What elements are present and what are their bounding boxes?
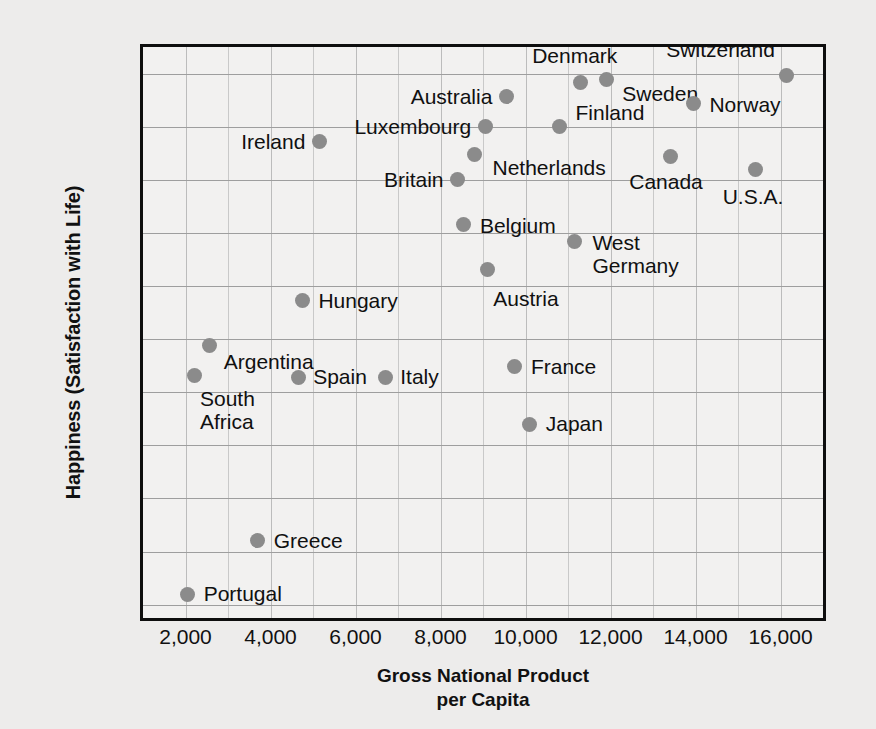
horizontal-gridline bbox=[143, 445, 823, 446]
data-point[interactable] bbox=[480, 262, 495, 277]
data-point-label: Ireland bbox=[241, 130, 305, 153]
data-point[interactable] bbox=[507, 359, 522, 374]
x-axis-title: Gross National Product per Capita bbox=[140, 664, 826, 713]
data-point-label: Canada bbox=[629, 171, 703, 194]
data-point[interactable] bbox=[250, 533, 265, 548]
data-point-label: Portugal bbox=[204, 583, 282, 606]
horizontal-gridline bbox=[143, 498, 823, 499]
data-point-label: Spain bbox=[313, 366, 367, 389]
data-point-label: Australia bbox=[411, 86, 493, 109]
data-point-label: Switzerland bbox=[666, 47, 775, 61]
data-point[interactable] bbox=[180, 587, 195, 602]
vertical-gridline bbox=[526, 47, 527, 618]
plot-inner: PortugalGreeceSouth AfricaArgentinaSpain… bbox=[143, 47, 823, 618]
vertical-gridline bbox=[738, 47, 739, 618]
data-point[interactable] bbox=[552, 119, 567, 134]
vertical-gridline bbox=[611, 47, 612, 618]
data-point[interactable] bbox=[295, 293, 310, 308]
data-point[interactable] bbox=[478, 119, 493, 134]
data-point-label: France bbox=[531, 355, 596, 378]
data-point[interactable] bbox=[522, 417, 537, 432]
data-point[interactable] bbox=[599, 72, 614, 87]
data-point[interactable] bbox=[748, 162, 763, 177]
data-point[interactable] bbox=[378, 370, 393, 385]
plot-area: PortugalGreeceSouth AfricaArgentinaSpain… bbox=[140, 44, 826, 621]
vertical-gridline bbox=[186, 47, 187, 618]
data-point-label: Greece bbox=[274, 530, 343, 553]
data-point[interactable] bbox=[779, 68, 794, 83]
data-point[interactable] bbox=[663, 149, 678, 164]
data-point-label: Italy bbox=[400, 366, 439, 389]
data-point[interactable] bbox=[499, 89, 514, 104]
vertical-gridline bbox=[568, 47, 569, 618]
data-point[interactable] bbox=[291, 370, 306, 385]
data-point-label: Luxembourg bbox=[354, 115, 471, 138]
vertical-gridline bbox=[781, 47, 782, 618]
data-point[interactable] bbox=[450, 172, 465, 187]
data-point-label: Japan bbox=[546, 413, 603, 436]
data-point-label: West Germany bbox=[592, 233, 678, 278]
horizontal-gridline bbox=[143, 552, 823, 553]
x-tick-label: 16,000 bbox=[701, 626, 861, 647]
data-point-label: South Africa bbox=[200, 389, 255, 434]
vertical-gridline bbox=[653, 47, 654, 618]
x-axis-title-line2: per Capita bbox=[140, 688, 826, 712]
data-point-label: Austria bbox=[493, 288, 558, 311]
data-point[interactable] bbox=[573, 75, 588, 90]
horizontal-gridline bbox=[143, 74, 823, 75]
data-point[interactable] bbox=[456, 217, 471, 232]
horizontal-gridline bbox=[143, 286, 823, 287]
data-point-label: Denmark bbox=[532, 47, 617, 67]
data-point-label: Norway bbox=[709, 94, 780, 117]
data-point-label: Netherlands bbox=[493, 157, 606, 180]
data-point-label: Hungary bbox=[318, 290, 397, 313]
chart-figure: Happiness (Satisfaction with Life) Portu… bbox=[0, 0, 876, 729]
data-point[interactable] bbox=[202, 338, 217, 353]
x-axis-title-line1: Gross National Product bbox=[140, 664, 826, 688]
data-point[interactable] bbox=[312, 134, 327, 149]
horizontal-gridline bbox=[143, 180, 823, 181]
y-axis-title: Happiness (Satisfaction with Life) bbox=[62, 48, 85, 638]
data-point-label: U.S.A. bbox=[723, 186, 784, 209]
data-point-label: Belgium bbox=[480, 215, 556, 238]
horizontal-gridline bbox=[143, 339, 823, 340]
data-point-label: Britain bbox=[384, 168, 444, 191]
data-point[interactable] bbox=[187, 368, 202, 383]
vertical-gridline bbox=[228, 47, 229, 618]
vertical-gridline bbox=[696, 47, 697, 618]
data-point[interactable] bbox=[567, 234, 582, 249]
data-point[interactable] bbox=[467, 147, 482, 162]
data-point[interactable] bbox=[686, 96, 701, 111]
